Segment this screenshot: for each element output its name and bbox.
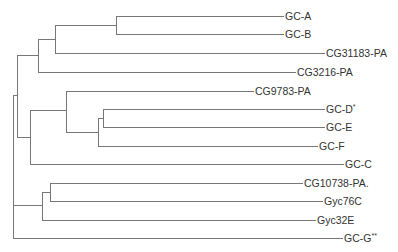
leaf-name: CG3216-PA	[297, 66, 353, 78]
leaf-name: GC-G	[344, 232, 371, 244]
leaf-label-gc-b: GC-B	[285, 28, 311, 40]
leaf-label-gc-c: GC-C	[345, 158, 372, 170]
leaf-name: GC-C	[345, 158, 372, 170]
leaf-label-gc-e: GC-E	[326, 121, 352, 133]
leaf-label-gc-f: GC-F	[319, 140, 345, 152]
leaf-label-cg10738: CG10738-PA.	[304, 177, 369, 189]
leaf-name: GC-D	[326, 103, 353, 115]
leaf-name: GC-A	[285, 10, 311, 22]
leaf-name: CG31183-PA	[326, 47, 387, 59]
leaf-label-gyc32e: Gyc32E	[317, 214, 354, 226]
leaf-name: GC-F	[319, 140, 345, 152]
leaf-name: Gyc32E	[317, 214, 354, 226]
leaf-name: GC-E	[326, 121, 352, 133]
leaf-label-cg31183: CG31183-PA	[326, 47, 387, 59]
leaf-label-cg3216: CG3216-PA	[297, 66, 353, 78]
leaf-label-gc-a: GC-A	[285, 10, 311, 22]
leaf-name: CG9783-PA	[255, 85, 311, 97]
leaf-mark: *	[353, 103, 356, 110]
leaf-name: Gyc76C	[324, 195, 362, 207]
branch-lines	[13, 17, 344, 239]
leaf-label-gyc76c: Gyc76C	[324, 195, 362, 207]
leaf-name: GC-B	[285, 28, 311, 40]
leaf-mark: **	[371, 232, 376, 239]
leaf-label-gc-g: GC-G**	[344, 232, 377, 244]
leaf-label-gc-d: GC-D*	[326, 103, 356, 115]
leaf-name: CG10738-PA.	[304, 177, 369, 189]
leaf-label-cg9783: CG9783-PA	[255, 85, 311, 97]
